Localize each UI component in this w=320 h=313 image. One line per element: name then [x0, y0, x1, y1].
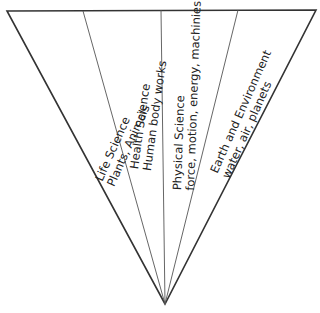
funnel-diagram	[0, 0, 320, 313]
divider-2	[161, 10, 165, 304]
